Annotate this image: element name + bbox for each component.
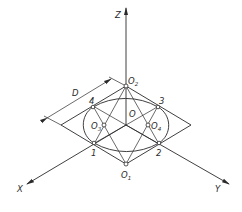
- label-o2: O2: [128, 76, 139, 87]
- arc-right: [158, 107, 169, 143]
- label-1: 1: [91, 148, 96, 158]
- isometric-circle-diagram: D Z X Y O2 O1 O3 O4 O 1 2 3 4: [0, 0, 242, 212]
- point-1: [92, 141, 96, 145]
- y-axis-label: Y: [215, 184, 221, 194]
- point-o3: [102, 123, 106, 127]
- label-center-o: O: [129, 109, 136, 119]
- point-o1: [124, 162, 128, 166]
- z-axis-label: Z: [114, 10, 121, 20]
- label-o4: O4: [151, 121, 162, 132]
- label-o1: O1: [121, 170, 131, 181]
- point-2: [157, 141, 161, 145]
- label-2: 2: [156, 148, 161, 158]
- dimension-line: [47, 79, 111, 118]
- dimension-label: D: [72, 88, 79, 98]
- o1-to-4: [93, 106, 126, 164]
- x-axis-label: X: [16, 184, 23, 194]
- label-4: 4: [89, 96, 94, 106]
- dimension-extension-top: [109, 77, 126, 86]
- dimension-extension-left: [44, 116, 61, 125]
- label-3: 3: [159, 96, 164, 106]
- label-o3: O3: [91, 121, 102, 132]
- point-o4: [146, 123, 150, 127]
